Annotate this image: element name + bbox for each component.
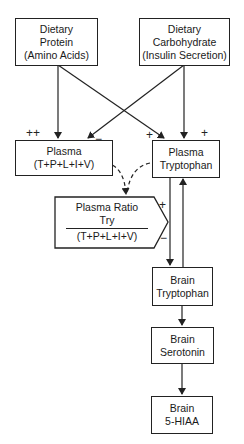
ratio-title: Plasma Ratio <box>76 201 138 214</box>
node-label: Brain <box>170 402 195 415</box>
node-label: Protein <box>40 36 73 49</box>
node-brain-tryptophan: Brain Tryptophan <box>152 267 213 306</box>
node-label: Brain <box>170 333 195 346</box>
node-label: Plasma <box>168 146 203 159</box>
sign-ratio-minus: − <box>160 232 167 244</box>
node-label: Tryptophan <box>160 159 213 172</box>
sign-protein-to-plasma-tryptophan: + <box>146 129 153 141</box>
arrow-carb-to-plasma <box>88 65 184 138</box>
node-label: Serotonin <box>160 346 205 359</box>
node-plasma-ratio: Plasma Ratio Try (T+P+L+I+V) <box>60 201 154 243</box>
sign-ratio-plus: + <box>159 199 166 211</box>
node-label: (Amino Acids) <box>24 49 89 62</box>
node-plasma-tryptophan: Plasma Tryptophan <box>152 140 220 178</box>
node-label: (Insulin Secretion) <box>142 49 227 62</box>
node-label: (T+P+L+I+V) <box>34 158 95 171</box>
node-dietary-carbohydrate: Dietary Carbohydrate (Insulin Secretion) <box>139 18 230 66</box>
node-label: Brain <box>170 274 195 287</box>
sign-carb-to-plasma: − <box>95 133 102 145</box>
fraction-bar <box>66 228 148 229</box>
dashed-arrow-tryptophan-to-ratio <box>127 163 150 194</box>
node-label: Plasma <box>46 145 81 158</box>
sign-carb-to-plasma-tryptophan: + <box>201 127 208 139</box>
node-label: Dietary <box>168 23 201 36</box>
node-label: Dietary <box>40 23 73 36</box>
ratio-denominator: (T+P+L+I+V) <box>77 230 138 243</box>
node-brain-5hiaa: Brain 5-HIAA <box>151 396 213 434</box>
node-brain-serotonin: Brain Serotonin <box>151 327 214 364</box>
node-label: Tryptophan <box>156 287 209 300</box>
node-label: Carbohydrate <box>153 36 217 49</box>
ratio-numerator: Try <box>100 214 115 227</box>
node-dietary-protein: Dietary Protein (Amino Acids) <box>15 18 98 66</box>
node-label: 5-HIAA <box>165 415 199 428</box>
sign-protein-to-plasma: ++ <box>26 127 40 139</box>
